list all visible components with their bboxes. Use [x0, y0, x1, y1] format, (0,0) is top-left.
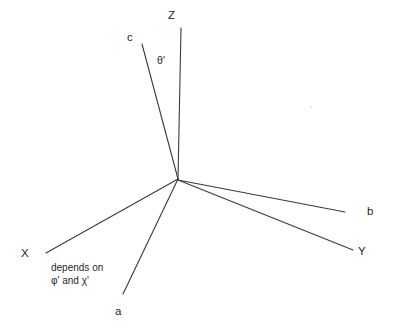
axes-diagram: Z c θ' b X Y a depends on φ' and χ' [0, 0, 394, 329]
axis-line-z [178, 28, 181, 179]
annotation-depends-on: depends on φ' and χ' [51, 262, 103, 287]
axis-label-c: c [127, 31, 133, 43]
axis-label-z: Z [168, 9, 175, 21]
axis-label-a: a [115, 305, 122, 317]
annotation-line-2: φ' and χ' [51, 275, 103, 288]
axis-line-x [46, 179, 178, 253]
axis-label-b: b [367, 205, 374, 217]
axis-line-y [178, 180, 353, 250]
scan-speck [310, 106, 312, 108]
annotation-line-1: depends on [51, 262, 103, 275]
axis-line-b [178, 180, 345, 212]
axis-label-x: X [21, 247, 29, 259]
axis-label-y: Y [358, 245, 366, 257]
angle-label-theta-prime: θ' [157, 54, 165, 66]
axis-line-a [123, 179, 178, 294]
